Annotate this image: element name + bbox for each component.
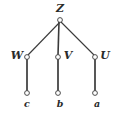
tree-edge-z-w [28,22,60,55]
node-label-c: c [24,99,30,109]
node-label-v: V [64,50,73,61]
tree-node-v [56,55,61,60]
tree-node-c [25,91,30,96]
tree-node-b [56,91,61,96]
node-label-w: W [11,50,23,61]
node-label-a: a [94,99,100,109]
node-label-u: U [100,50,110,61]
tree-node-u [93,55,98,60]
node-label-z: Z [56,3,64,14]
node-label-b: b [57,99,64,109]
tree-node-a [93,91,98,96]
tree-node-z [58,18,63,23]
tree-diagram: ZWVUcba [0,0,120,115]
edges-layer [27,22,95,91]
nodes-layer [25,18,98,96]
tree-node-w [25,55,30,60]
tree-edge-z-v [58,22,59,55]
